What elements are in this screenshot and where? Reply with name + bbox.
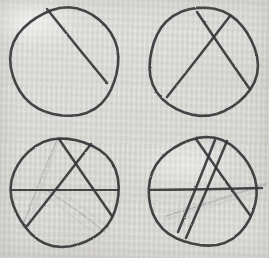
sketch-drawing <box>0 0 269 258</box>
ghost-6 <box>50 186 109 229</box>
bottom-left-circle <box>11 137 119 247</box>
bottom-left-circle-outline <box>11 138 119 247</box>
panels-layer <box>10 7 268 247</box>
ghost-3 <box>33 140 59 219</box>
top-right-circle-chord-2 <box>167 16 230 97</box>
top-right-circle <box>150 8 258 116</box>
ghost-2 <box>164 186 262 220</box>
top-left-circle <box>10 7 118 115</box>
ghost-2 <box>28 138 57 224</box>
bottom-right-circle <box>149 137 268 246</box>
ghost-1 <box>22 137 58 228</box>
sketch-sheet <box>0 0 269 258</box>
top-left-circle-outline <box>10 7 118 115</box>
